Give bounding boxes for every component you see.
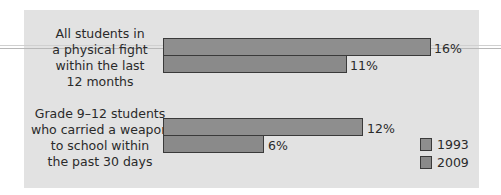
value-fight-1993: 16% <box>434 41 462 57</box>
value-fight-2009: 11% <box>350 58 378 74</box>
bar-weapon-1993 <box>163 118 363 136</box>
bar-fight-1993 <box>163 38 431 56</box>
category-label-fight: All students in a physical fight within … <box>40 26 160 90</box>
legend-item-1993: 1993 <box>420 137 469 152</box>
legend-item-2009: 2009 <box>420 155 469 170</box>
bar-weapon-2009 <box>163 135 264 153</box>
category-label-weapon: Grade 9–12 students who carried a weapon… <box>30 106 170 170</box>
value-weapon-1993: 12% <box>367 121 395 137</box>
value-weapon-2009: 6% <box>268 138 288 154</box>
legend-swatch-2009 <box>420 156 432 169</box>
legend-swatch-1993 <box>420 138 432 151</box>
bar-fight-2009 <box>163 55 347 73</box>
